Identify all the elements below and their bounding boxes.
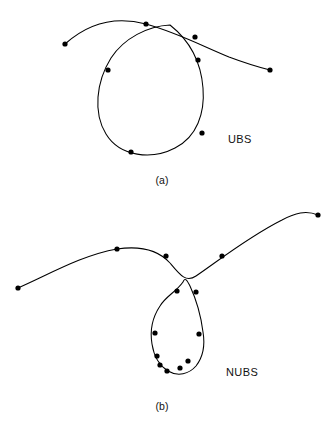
control-point-dot <box>193 289 198 294</box>
control-point-dot <box>143 21 148 26</box>
control-point-dot <box>154 353 159 358</box>
control-point-dot <box>185 358 190 363</box>
control-point-dot <box>114 246 119 251</box>
control-point-dot <box>157 362 162 367</box>
control-point-dot <box>163 253 168 258</box>
nubs-curve-label: NUBS <box>226 366 258 378</box>
control-point-dot <box>152 330 157 335</box>
nubs-curve-plot <box>0 200 334 431</box>
nubs-open-arc-path <box>18 213 318 288</box>
control-point-dot <box>62 41 67 46</box>
caption-panel-b: (b) <box>0 400 329 412</box>
ubs-open-arc-path <box>65 21 270 70</box>
control-point-dot <box>195 57 200 62</box>
ubs-loop-path <box>98 25 204 155</box>
control-point-dot <box>174 288 179 293</box>
control-point-dot <box>177 365 182 370</box>
control-point-dot <box>315 212 320 217</box>
control-point-dot <box>267 67 272 72</box>
panel-non-uniform-b-spline <box>0 200 334 431</box>
control-point-dot <box>192 34 197 39</box>
caption-panel-a: (a) <box>0 174 329 186</box>
ubs-curve-label: UBS <box>228 133 252 145</box>
control-point-dot <box>15 285 20 290</box>
control-point-dot <box>105 67 110 72</box>
control-point-dot <box>219 253 224 258</box>
control-point-dot <box>199 130 204 135</box>
control-point-dot <box>164 368 169 373</box>
figure-sheet: UBS (a) NUBS (b) <box>0 0 334 431</box>
control-point-dot <box>196 331 201 336</box>
control-point-dot <box>128 149 133 154</box>
